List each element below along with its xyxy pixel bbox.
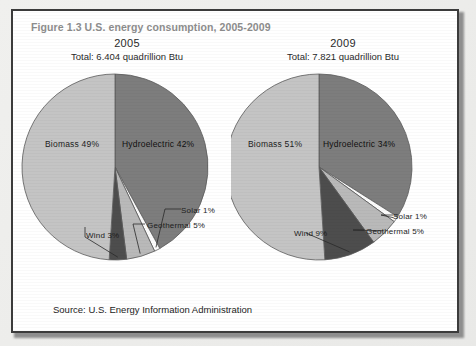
- callout-label-geothermal: Geothermal 5%: [366, 227, 424, 236]
- panel-year-label: 2005: [15, 37, 239, 49]
- figure-frame: Figure 1.3 U.S. energy consumption, 2005…: [11, 9, 459, 333]
- pie-chart-2005: Biomass 49% Hydroelectric 42% Solar 1% G…: [15, 67, 239, 277]
- callout-label-wind: Wind 9%: [294, 229, 327, 238]
- slice-label-hydroelectric: Hydroelectric 34%: [323, 139, 395, 149]
- slice-label-biomass: Biomass 49%: [45, 139, 99, 149]
- pie-svg-2005: [15, 67, 239, 277]
- panel-2009: 2009 Total: 7.821 quadrillion Btu Biomas…: [231, 37, 455, 307]
- callout-label-solar: Solar 1%: [393, 212, 427, 221]
- pie-svg-2009: [231, 67, 455, 277]
- slice-label-hydroelectric: Hydroelectric 42%: [122, 139, 194, 149]
- callout-label-solar: Solar 1%: [181, 206, 215, 215]
- panel-year-label: 2009: [231, 37, 455, 49]
- panel-total-label: Total: 7.821 quadrillion Btu: [231, 51, 455, 62]
- panel-total-label: Total: 6.404 quadrillion Btu: [15, 51, 239, 62]
- pie-chart-2009: Biomass 51% Hydroelectric 34% Solar 1% G…: [231, 67, 455, 277]
- callout-label-wind: Wind 3%: [86, 231, 119, 240]
- slice-label-biomass: Biomass 51%: [248, 139, 302, 149]
- panel-2005: 2005 Total: 6.404 quadrillion Btu Biomas…: [15, 37, 239, 307]
- figure-page: Figure 1.3 U.S. energy consumption, 2005…: [0, 0, 476, 346]
- figure-title: Figure 1.3 U.S. energy consumption, 2005…: [31, 21, 271, 33]
- callout-label-geothermal: Geothermal 5%: [147, 221, 205, 230]
- source-line: Source: U.S. Energy Information Administ…: [53, 304, 252, 315]
